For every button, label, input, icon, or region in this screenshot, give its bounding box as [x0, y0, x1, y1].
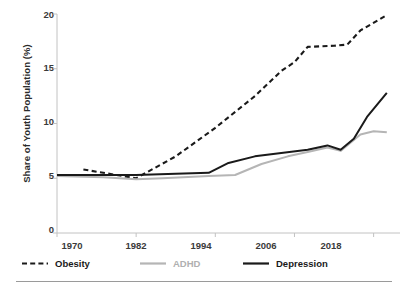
- series-line-obesity: [83, 15, 386, 178]
- footer-divider: [16, 281, 392, 282]
- legend-label-obesity: Obesity: [55, 258, 90, 269]
- legend-item-adhd[interactable]: ADHD: [140, 252, 200, 274]
- legend-label-depression: Depression: [276, 258, 328, 269]
- legend-swatch-adhd: [140, 258, 166, 269]
- chart-legend: Obesity ADHD Depression: [0, 252, 408, 278]
- legend-item-depression[interactable]: Depression: [243, 252, 328, 274]
- legend-swatch-depression: [243, 258, 269, 269]
- series-line-adhd: [57, 131, 387, 179]
- y-axis-ticks: [53, 14, 57, 233]
- chart-figure: Share of Youth Population (%) 20 15 10 5…: [0, 0, 408, 296]
- x-axis-ticks: [57, 233, 374, 237]
- series-line-depression: [57, 93, 387, 175]
- legend-item-obesity[interactable]: Obesity: [22, 252, 90, 274]
- legend-swatch-obesity: [22, 258, 48, 269]
- legend-label-adhd: ADHD: [173, 258, 200, 269]
- series-lines: [57, 15, 387, 179]
